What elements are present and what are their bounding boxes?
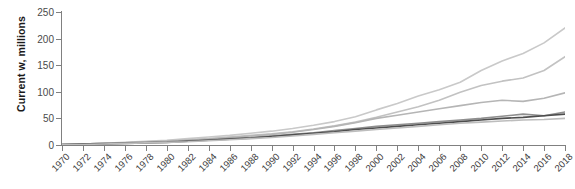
series-lines	[62, 12, 565, 145]
y-axis-tick-labels: 250200150100500	[22, 0, 54, 189]
x-tick-label: 1978	[128, 151, 156, 179]
x-tick-label: 2012	[484, 151, 512, 179]
y-tick-mark	[56, 145, 61, 146]
y-tick-label: 100	[24, 86, 54, 97]
x-tick-mark	[314, 146, 315, 151]
y-tick-label: 250	[24, 7, 54, 18]
series-line	[62, 118, 565, 144]
x-tick-mark	[146, 146, 147, 151]
plot-area	[62, 12, 565, 145]
x-tick-mark	[272, 146, 273, 151]
y-tick-mark	[56, 65, 61, 66]
y-tick-label: 50	[24, 113, 54, 124]
series-line	[62, 28, 565, 145]
x-tick-mark	[293, 146, 294, 151]
x-tick-mark	[188, 146, 189, 151]
x-tick-label: 2018	[547, 151, 575, 179]
y-tick-mark	[56, 39, 61, 40]
y-tick-mark	[56, 92, 61, 93]
x-tick-mark	[167, 146, 168, 151]
x-tick-mark	[125, 146, 126, 151]
x-tick-label: 1972	[65, 151, 93, 179]
x-tick-mark	[209, 146, 210, 151]
x-tick-label: 1974	[86, 151, 114, 179]
y-tick-mark	[56, 12, 61, 13]
x-tick-mark	[251, 146, 252, 151]
x-tick-label: 2016	[526, 151, 554, 179]
y-tick-mark	[56, 118, 61, 119]
y-tick-label: 200	[24, 33, 54, 44]
x-tick-label: 2010	[463, 151, 491, 179]
y-tick-label: 150	[24, 60, 54, 71]
x-tick-label: 1976	[107, 151, 135, 179]
series-line	[62, 57, 565, 145]
x-tick-label: 2014	[505, 151, 533, 179]
x-tick-mark	[230, 146, 231, 151]
x-tick-mark	[104, 146, 105, 151]
line-chart: Current w, millions 250200150100500 1970…	[0, 0, 575, 189]
y-tick-label: 0	[24, 140, 54, 151]
